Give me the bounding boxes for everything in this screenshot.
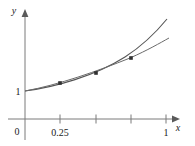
chart-svg: y x 0 1 0.25 1 — [0, 0, 195, 146]
y-axis-arrow-icon — [22, 9, 29, 17]
data-point — [94, 71, 98, 75]
x-axis-label: x — [175, 122, 181, 133]
y-axis-label: y — [11, 5, 17, 16]
origin-label: 0 — [15, 126, 20, 137]
data-point — [129, 56, 133, 60]
lower-curve — [25, 38, 169, 91]
x-tick-label-1: 1 — [164, 127, 169, 138]
y-tick-label-1: 1 — [16, 86, 21, 97]
chart-figure: y x 0 1 0.25 1 — [0, 0, 195, 146]
data-point — [58, 81, 62, 85]
x-tick-label-025: 0.25 — [51, 127, 69, 138]
upper-curve — [25, 19, 167, 91]
